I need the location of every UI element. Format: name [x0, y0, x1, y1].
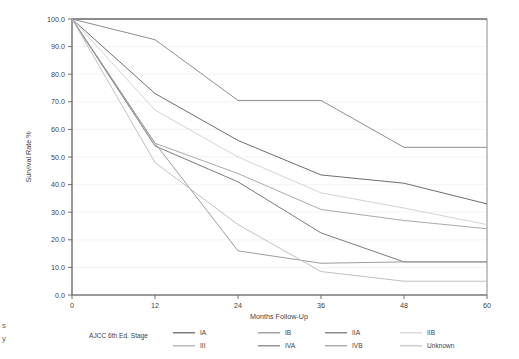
page-edge-glyph-1: s	[2, 321, 6, 330]
y-axis-title: Survival Rate %	[24, 131, 33, 183]
y-tick-label: 40.0	[51, 180, 65, 189]
x-tick-label: 36	[317, 301, 325, 310]
y-tick-label: 0.0	[55, 291, 65, 300]
x-tick-label: 12	[151, 301, 159, 310]
legend-title: AJCC 6th Ed. Stage	[89, 332, 148, 340]
x-tick-label: 48	[400, 301, 408, 310]
legend-label-ia: IA	[200, 329, 207, 336]
legend-label-ivb: IVB	[352, 342, 363, 349]
legend-label-iva: IVA	[285, 342, 296, 349]
x-tick-label: 0	[70, 301, 74, 310]
y-tick-label: 90.0	[51, 42, 65, 51]
y-tick-label: 70.0	[51, 97, 65, 106]
y-tick-label: 10.0	[51, 263, 65, 272]
y-tick-label: 20.0	[51, 235, 65, 244]
y-tick-label: 50.0	[51, 153, 65, 162]
y-tick-label: 100.0	[47, 15, 65, 24]
legend-label-iii: III	[200, 342, 206, 349]
legend-label-ib: IB	[285, 329, 292, 336]
legend-label-unknown: Unknown	[427, 342, 455, 349]
survival-curve-chart: 0.010.020.030.040.050.060.070.080.090.01…	[0, 0, 519, 359]
legend-label-iib: IIB	[427, 329, 436, 336]
x-tick-label: 60	[483, 301, 491, 310]
y-tick-label: 30.0	[51, 208, 65, 217]
legend-label-iia: IIA	[352, 329, 361, 336]
y-tick-label: 60.0	[51, 125, 65, 134]
x-tick-label: 24	[234, 301, 242, 310]
page-edge-glyph-2: y	[2, 334, 6, 343]
chart-background	[0, 0, 519, 359]
x-axis-title: Months Follow-Up	[250, 312, 308, 321]
y-tick-label: 80.0	[51, 70, 65, 79]
